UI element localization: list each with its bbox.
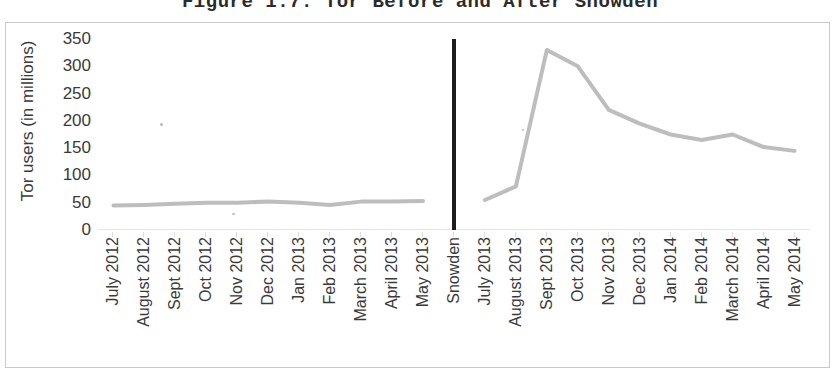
x-tick-label: Dec 2012 (259, 237, 277, 306)
x-tick-label: Snowden (445, 237, 463, 304)
scan-artifact (232, 213, 235, 215)
x-tick-label: Oct 2013 (569, 237, 587, 302)
y-tick-label: 250 (45, 84, 91, 104)
x-tick-label: April 2013 (383, 237, 401, 309)
y-tick-label: 300 (45, 56, 91, 76)
line-segment-before-snowden (113, 201, 423, 205)
figure-border-box: Tor users (in millions) 0501001502002503… (5, 22, 830, 368)
y-tick-label: 0 (45, 220, 91, 240)
y-tick-label: 50 (45, 193, 91, 213)
x-tick-label: July 2012 (104, 237, 122, 306)
x-tick-label: April 2014 (755, 237, 773, 309)
y-axis-title: Tor users (in millions) (18, 21, 38, 221)
x-tick-label: Oct 2012 (197, 237, 215, 302)
tor-users-line-series (98, 39, 810, 230)
line-segment-after-snowden (485, 50, 795, 200)
x-tick-label: May 2013 (414, 237, 432, 307)
x-tick-label: Jan 2013 (290, 237, 308, 303)
x-tick-label: March 2013 (352, 237, 370, 322)
x-tick-label: July 2013 (476, 237, 494, 306)
y-tick-label: 200 (45, 111, 91, 131)
scan-artifact (160, 123, 163, 126)
x-tick-label: Nov 2013 (600, 237, 618, 306)
x-tick-label: May 2014 (786, 237, 804, 307)
x-tick-label: Nov 2012 (228, 237, 246, 306)
x-tick-label: Feb 2014 (693, 237, 711, 305)
x-tick-label: August 2012 (135, 237, 153, 327)
plot-area: 050100150200250300350 (98, 39, 810, 230)
scan-artifact (522, 129, 524, 131)
x-tick-label: Feb 2013 (321, 237, 339, 305)
x-tick-label: August 2013 (507, 237, 525, 327)
x-tick-label: Jan 2014 (662, 237, 680, 303)
x-tick-label: Sept 2013 (538, 237, 556, 310)
x-tick-label: Dec 2013 (631, 237, 649, 306)
y-tick-label: 150 (45, 138, 91, 158)
y-tick-label: 100 (45, 165, 91, 185)
y-tick-label: 350 (45, 29, 91, 49)
x-axis-tick-labels: July 2012August 2012Sept 2012Oct 2012Nov… (98, 237, 810, 362)
figure-title: Figure 1.7: Tor Before and After Snowden (0, 0, 840, 13)
x-tick-label: Sept 2012 (166, 237, 184, 310)
x-tick-label: March 2014 (724, 237, 742, 322)
